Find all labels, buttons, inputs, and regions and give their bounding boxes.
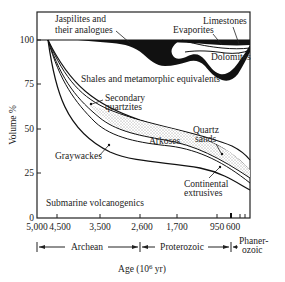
x-tick-label: 2,600 xyxy=(131,222,153,232)
y-tick-label: 25 xyxy=(25,168,35,178)
label-dolomites: Dolomites xyxy=(211,52,251,62)
y-tick-label: 75 xyxy=(25,79,35,89)
label-arkoses: Arkoses xyxy=(149,136,180,146)
y-axis: 100 75 50 25 0 Volume % xyxy=(8,35,41,223)
label-jaspilites: Jaspilites and xyxy=(55,14,106,24)
eon-bar: Archean Proterozoic Phaner- ozoic xyxy=(37,236,268,255)
x-tick-label: 4,500 xyxy=(49,222,71,232)
x-tick-label: 3,500 xyxy=(89,222,111,232)
x-axis: 5,000 4,500 3,500 2,600 1,700 950 600 xyxy=(26,213,245,232)
x-tick-label: 1,700 xyxy=(166,222,188,232)
x-axis-label: Age (106 yr) xyxy=(118,263,166,275)
rock-volume-diagram: 100 75 50 25 0 Volume % 5,000 4,500 3,50… xyxy=(0,0,285,282)
y-tick-label: 100 xyxy=(20,35,35,45)
x-tick-label: 600 xyxy=(226,222,241,232)
eon-proterozoic: Proterozoic xyxy=(160,242,204,252)
x-tick-label: 950 xyxy=(210,222,225,232)
y-axis-label: Volume % xyxy=(8,105,18,145)
label-shales: Shales and metamorphic equivalents xyxy=(81,74,220,84)
label-secondary-quartzites: quartzites xyxy=(105,102,142,112)
label-quartz-sands: sands xyxy=(195,134,216,144)
label-graywackes: Graywackes xyxy=(55,151,102,161)
eon-phanerozoic: ozoic xyxy=(242,245,263,255)
x-tick-label: 5,000 xyxy=(26,222,48,232)
label-submarine-volcanogenics: Submarine volcanogenics xyxy=(46,198,144,208)
label-jaspilites: their analogues xyxy=(55,25,113,35)
label-evaporites: Evaporites xyxy=(173,25,214,35)
y-tick-label: 50 xyxy=(25,124,35,134)
label-continental-extrusives: extrusives xyxy=(184,188,223,198)
eon-archean: Archean xyxy=(71,242,103,252)
